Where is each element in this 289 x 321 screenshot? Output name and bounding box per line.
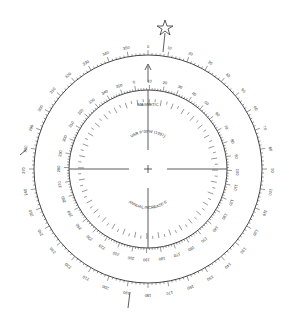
svg-text:290: 290 [28, 123, 35, 132]
svg-text:160: 160 [187, 245, 196, 253]
svg-text:190: 190 [122, 290, 130, 296]
svg-text:300: 300 [61, 134, 68, 143]
compass-rose: 0102030405060708090100110120130140150160… [0, 0, 289, 321]
svg-text:290: 290 [57, 149, 63, 157]
svg-text:60: 60 [214, 111, 221, 118]
svg-text:110: 110 [261, 209, 268, 217]
svg-text:250: 250 [27, 208, 34, 217]
svg-text:130: 130 [220, 212, 228, 221]
svg-text:260: 260 [22, 188, 28, 196]
svg-text:140: 140 [223, 262, 232, 271]
svg-text:340: 340 [100, 88, 109, 96]
svg-text:280: 280 [56, 165, 61, 173]
magnetic-label: MAGNETIC [137, 102, 158, 107]
svg-text:310: 310 [49, 86, 58, 95]
svg-text:350: 350 [115, 82, 124, 89]
svg-text:270: 270 [56, 180, 62, 188]
svg-text:0: 0 [133, 79, 137, 84]
svg-text:50: 50 [203, 100, 210, 107]
svg-text:20: 20 [188, 50, 195, 56]
svg-text:30: 30 [177, 84, 184, 91]
svg-text:190: 190 [142, 257, 150, 262]
svg-text:220: 220 [97, 243, 106, 251]
svg-text:110: 110 [233, 184, 239, 192]
svg-text:260: 260 [60, 195, 67, 204]
svg-text:70: 70 [223, 124, 230, 131]
svg-text:90: 90 [234, 154, 240, 160]
svg-text:10: 10 [167, 45, 173, 51]
svg-text:120: 120 [252, 229, 260, 238]
svg-text:80: 80 [230, 138, 236, 145]
svg-text:200: 200 [126, 255, 134, 261]
svg-text:280: 280 [22, 144, 28, 152]
svg-text:170: 170 [172, 252, 181, 259]
svg-text:270: 270 [21, 166, 26, 173]
svg-text:60: 60 [253, 105, 260, 112]
svg-text:180: 180 [158, 256, 166, 262]
svg-text:100: 100 [235, 169, 240, 177]
svg-text:330: 330 [88, 96, 97, 105]
svg-text:40: 40 [191, 90, 198, 97]
svg-text:90: 90 [270, 168, 275, 173]
svg-text:150: 150 [205, 274, 214, 282]
svg-text:50: 50 [240, 87, 247, 94]
svg-text:240: 240 [36, 228, 44, 237]
svg-text:310: 310 [67, 120, 75, 129]
svg-text:320: 320 [76, 107, 85, 116]
svg-text:180: 180 [144, 293, 151, 298]
svg-text:340: 340 [101, 50, 110, 57]
svg-text:240: 240 [74, 222, 83, 231]
svg-text:80: 80 [268, 146, 274, 152]
svg-text:30: 30 [207, 59, 214, 66]
svg-text:70: 70 [262, 125, 268, 132]
center-cross-icon [144, 165, 152, 173]
svg-text:230: 230 [85, 233, 94, 242]
svg-text:330: 330 [82, 58, 91, 66]
svg-text:130: 130 [239, 246, 248, 255]
svg-text:20: 20 [162, 80, 168, 86]
svg-text:160: 160 [186, 284, 195, 291]
svg-text:210: 210 [81, 274, 90, 282]
svg-text:220: 220 [63, 261, 72, 270]
svg-text:230: 230 [48, 246, 57, 255]
svg-text:120: 120 [228, 199, 235, 208]
svg-text:0: 0 [147, 44, 150, 49]
svg-text:300: 300 [36, 103, 44, 112]
svg-text:320: 320 [64, 71, 73, 80]
svg-text:250: 250 [66, 209, 74, 218]
svg-text:210: 210 [111, 250, 120, 257]
svg-text:350: 350 [123, 45, 131, 51]
svg-text:200: 200 [101, 284, 110, 291]
svg-text:40: 40 [225, 72, 232, 79]
svg-text:170: 170 [165, 290, 173, 296]
svg-text:100: 100 [267, 188, 273, 196]
svg-text:150: 150 [200, 236, 209, 245]
svg-text:140: 140 [211, 225, 220, 234]
